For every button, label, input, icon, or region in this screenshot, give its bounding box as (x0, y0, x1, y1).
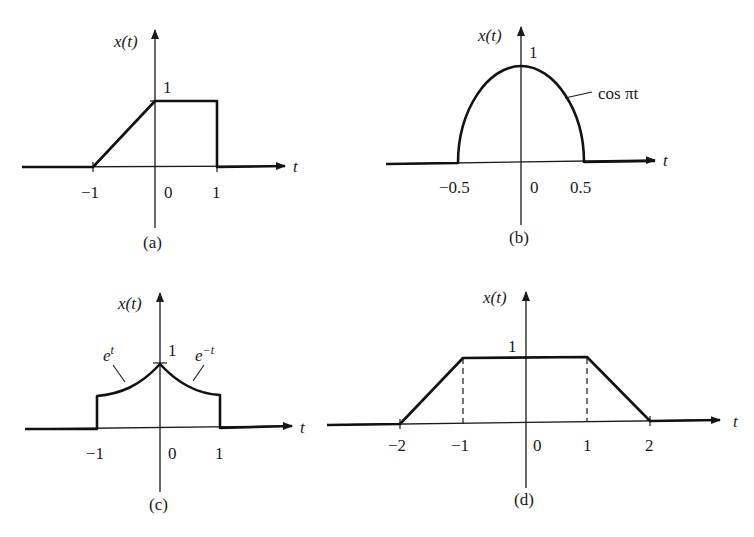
panel-d: x(t) 1 t −2 −1 0 1 2 (d) (327, 288, 739, 509)
panel-a: x(t) 1 t −1 0 1 (a) (22, 30, 299, 252)
tick-label: 0 (530, 178, 539, 197)
annotation-leader (193, 365, 204, 381)
curve-label-left: et (103, 343, 115, 365)
y-label: x(t) (113, 32, 138, 51)
annotation-leader (113, 365, 125, 382)
x-label: t (733, 412, 739, 431)
tick-label: −0.5 (439, 178, 470, 197)
tick-label: 1 (215, 444, 224, 463)
tick-label: 2 (645, 436, 654, 455)
tick-label: 0 (533, 436, 542, 455)
level-label: 1 (168, 341, 177, 360)
curve-label-right: e−t (195, 343, 215, 365)
signal-c (25, 364, 292, 429)
x-label: t (293, 157, 299, 176)
panel-c: x(t) 1 et e−t t −1 0 1 (c) (25, 293, 306, 514)
annotation-leader (565, 92, 592, 98)
curve-label: cos πt (598, 84, 638, 103)
level-label: 1 (508, 337, 517, 356)
panel-caption: (b) (509, 228, 529, 247)
tick-label: 0 (164, 183, 173, 202)
panel-caption: (a) (143, 233, 162, 252)
tick-label: −1 (86, 444, 104, 463)
tick-label: 1 (583, 436, 592, 455)
x-label: t (300, 418, 306, 437)
level-label: 1 (163, 78, 172, 97)
tick-label: 0.5 (570, 178, 591, 197)
y-label: x(t) (482, 288, 507, 307)
y-label: x(t) (117, 294, 142, 313)
signal-d (327, 357, 720, 425)
signal-a (22, 101, 285, 167)
tick-label: −2 (388, 436, 406, 455)
panel-caption: (d) (514, 490, 534, 509)
tick-label: 1 (212, 183, 221, 202)
level-label: 1 (529, 43, 538, 62)
panel-b: x(t) 1 cos πt t −0.5 0 0.5 (b) (386, 26, 669, 247)
y-label: x(t) (477, 26, 502, 45)
tick-label: −1 (451, 436, 469, 455)
tick-label: 0 (168, 444, 177, 463)
tick-label: −1 (81, 183, 99, 202)
x-label: t (663, 151, 669, 170)
figure-canvas: x(t) 1 t −1 0 1 (a) x(t) 1 cos πt t −0.5… (0, 0, 754, 537)
panel-caption: (c) (149, 495, 168, 514)
